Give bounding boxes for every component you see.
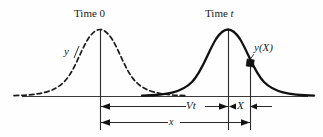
y-label-leader-line [74,46,79,58]
dimension-x-arrowhead-left [101,119,110,125]
time-t-label-symbol: t [231,7,234,19]
dimension-x [101,119,250,125]
y-of-X-marker [246,59,254,67]
dimension-x-arrowhead-right [241,119,250,125]
dimension-vt [101,103,228,109]
dimension-x-label: x [169,117,173,127]
amplitude-y-of-X-argument: (X) [259,41,273,53]
time-t-label-prefix: Time [205,7,231,19]
wave-propagation-figure: Time 0 Time t y y(X) Vt X x [0,0,323,137]
figure-canvas [0,0,323,137]
dimension-vt-arrowhead-left [101,103,110,109]
amplitude-y-label: y [64,46,69,57]
dimension-vt-arrowhead-right [219,103,228,109]
dimension-vt-label-time: t [193,99,196,111]
time-t-label: Time t [205,8,234,19]
dimension-vt-label: Vt [186,100,196,111]
time-zero-label: Time 0 [74,8,105,19]
amplitude-y-of-X-label: y(X) [254,42,273,53]
dimension-vt-label-velocity: V [186,99,193,111]
dimension-X-arrowhead-left [229,104,236,110]
dimension-X-label: X [237,100,244,111]
